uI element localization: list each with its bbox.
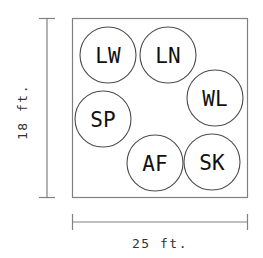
- table-sp-label: SP: [90, 108, 115, 132]
- vertical-dimension: 18 ft.: [15, 19, 56, 198]
- table-sp[interactable]: SP: [75, 91, 131, 147]
- table-ln[interactable]: LN: [140, 27, 196, 83]
- table-wl-label: WL: [202, 87, 227, 111]
- table-ln-label: LN: [155, 44, 180, 68]
- table-sk[interactable]: SK: [184, 134, 240, 190]
- table-sk-label: SK: [199, 151, 225, 175]
- table-lw[interactable]: LW: [80, 27, 136, 83]
- table-af[interactable]: AF: [127, 135, 183, 191]
- table-lw-label: LW: [95, 44, 121, 68]
- diagram-canvas: 18 ft. 25 ft. LW LN WL: [0, 0, 263, 258]
- horizontal-dimension: 25 ft.: [73, 214, 248, 251]
- vertical-dimension-label: 18 ft.: [15, 84, 30, 140]
- table-af-label: AF: [142, 152, 167, 176]
- room-layout-diagram: 18 ft. 25 ft. LW LN WL: [0, 0, 263, 258]
- table-wl[interactable]: WL: [187, 70, 243, 126]
- horizontal-dimension-label: 25 ft.: [132, 236, 188, 251]
